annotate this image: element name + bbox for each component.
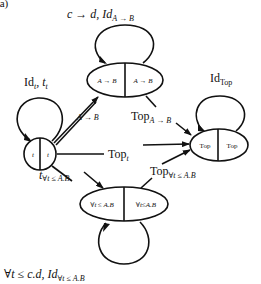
diagram-canvas: (a) t t A → B A → B Top: [0, 0, 261, 284]
edge-top-to-right-label: TopA → B: [131, 109, 171, 125]
edge-bottom-to-right-b: [162, 150, 190, 164]
edge-bottom-to-right-label: Top∀t ≤ A.B: [150, 164, 196, 180]
loop-right-label: IdTop: [210, 71, 232, 87]
figure-label: (a): [0, 0, 9, 10]
arrowhead-bottom-loop-icon: [103, 223, 110, 232]
loop-left-label: Idt, tt: [24, 75, 49, 91]
loop-left: [17, 98, 62, 141]
edge-left-to-right-b: [143, 144, 189, 145]
node-right: Top Top: [190, 129, 248, 161]
arrowhead-top-loop-icon: [99, 56, 107, 64]
node-bottom-right-label: ∀t≤A.B: [136, 201, 157, 209]
loop-bottom-label: ∀t ≤ c.d, Id∀t ≤ A.B: [4, 267, 85, 283]
edge-top-to-right-a: [146, 96, 156, 107]
node-right-right-label: Top: [227, 142, 238, 150]
node-right-left-label: Top: [200, 142, 211, 150]
loop-right: [196, 96, 244, 131]
edge-left-to-right-label: Topt: [108, 147, 130, 163]
node-top-right-label: A → B: [133, 77, 154, 85]
node-bottom-left-label: ∀t ≤ A.B: [90, 201, 114, 209]
edge-top-to-right-b: [176, 123, 191, 135]
edge-bottom-to-right-a: [141, 178, 152, 188]
node-top-left-label: A → B: [97, 77, 118, 85]
loop-top-label: c → d, IdA → B: [67, 7, 134, 23]
node-bottom: ∀t ≤ A.B ∀t≤A.B: [80, 187, 168, 221]
edge-left-to-bottom-b: [84, 172, 103, 188]
loop-top: [95, 25, 153, 63]
node-top: A → B A → B: [87, 63, 163, 97]
node-left: t t: [24, 138, 56, 170]
edge-left-to-top-label: A → B: [76, 113, 99, 122]
